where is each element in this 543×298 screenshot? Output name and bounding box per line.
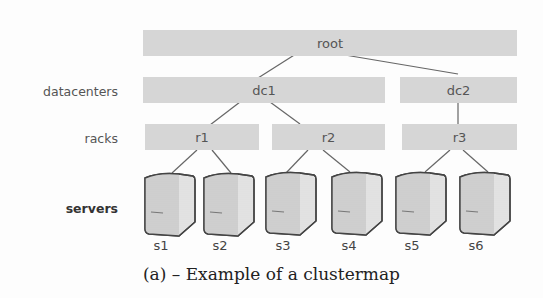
- server-icon-s6: [460, 173, 510, 236]
- server-icon-s4: [332, 173, 382, 236]
- server-icon-s1: [145, 174, 195, 237]
- server-label-s2: s2: [200, 238, 240, 253]
- server-icon-s5: [396, 173, 446, 236]
- server-label-s5: s5: [392, 238, 432, 253]
- server-label-s3: s3: [263, 238, 303, 253]
- server-icon-s3: [266, 173, 316, 236]
- server-icon-s2: [204, 174, 254, 237]
- server-label-s4: s4: [329, 238, 369, 253]
- server-icons: [0, 0, 543, 298]
- clustermap-diagram: root datacenters dc1 dc2 racks r1 r2 r3 …: [0, 0, 543, 298]
- figure-caption: (a) – Example of a clustermap: [0, 264, 543, 284]
- server-label-s1: s1: [141, 238, 181, 253]
- server-label-s6: s6: [456, 238, 496, 253]
